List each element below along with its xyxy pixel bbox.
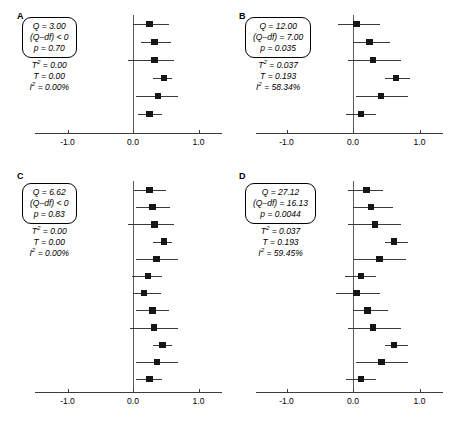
effect-size-marker	[368, 204, 375, 211]
stats-block-a: Q = 3.00(Q–df) < 0p = 0.70T2 = 0.00T = 0…	[22, 17, 77, 93]
x-tick-label: 0.0	[113, 137, 153, 147]
effect-size-marker	[161, 238, 168, 245]
stats-line: I2 = 58.34%	[252, 82, 304, 93]
effect-size-marker	[145, 273, 152, 280]
effect-size-marker	[154, 359, 161, 366]
effect-size-marker	[151, 39, 158, 46]
effect-size-marker	[151, 221, 158, 228]
effect-size-marker	[146, 111, 153, 118]
effect-size-marker	[372, 221, 379, 228]
x-tick-label: 0.0	[113, 396, 153, 406]
x-tick	[287, 130, 288, 133]
stats-line: (Q–df) = 7.00	[253, 32, 303, 43]
effect-size-marker	[378, 359, 385, 366]
x-tick-label: 1.0	[400, 137, 440, 147]
stats-block-c: Q = 6.62(Q–df) < 0p = 0.83T2 = 0.00T = 0…	[22, 183, 77, 259]
x-tick-label: 0.0	[333, 396, 373, 406]
effect-size-marker	[358, 376, 365, 383]
zero-reference-line	[353, 15, 354, 133]
effect-size-marker	[391, 342, 398, 349]
effect-size-marker	[391, 238, 398, 245]
stats-unboxed-b: T2 = 0.037T = 0.193I2 = 58.34%	[245, 58, 311, 93]
x-axis	[256, 133, 443, 134]
stats-unboxed-d: T2 = 0.037T = 0.193I2 = 59.45%	[245, 224, 316, 259]
x-axis	[35, 392, 222, 393]
effect-size-marker	[364, 307, 371, 314]
forest-plot-figure: AQ = 3.00(Q–df) < 0p = 0.70T2 = 0.00T = …	[0, 0, 464, 429]
stats-boxed-d: Q = 27.12(Q–df) = 16.13p = 0.0044	[245, 183, 316, 224]
x-tick	[133, 130, 134, 133]
stats-line: I2 = 59.45%	[252, 248, 309, 259]
effect-size-marker	[161, 75, 168, 82]
effect-size-marker	[151, 57, 158, 64]
stats-line: T2 = 0.00	[29, 226, 70, 237]
x-tick-label: -1.0	[267, 137, 307, 147]
x-tick-label: -1.0	[48, 137, 88, 147]
stats-line: (Q–df) = 16.13	[253, 198, 308, 209]
panel-letter-c: C	[17, 172, 24, 181]
x-tick	[353, 389, 354, 392]
effect-size-marker	[353, 290, 360, 297]
effect-size-marker	[146, 21, 153, 28]
stats-line: p = 0.83	[30, 209, 69, 220]
effect-size-marker	[151, 324, 158, 331]
stats-line: (Q–df) < 0	[30, 32, 69, 43]
stats-line: p = 0.035	[253, 43, 303, 54]
stats-line: Q = 27.12	[253, 187, 308, 198]
effect-size-marker	[149, 307, 156, 314]
x-tick-label: 1.0	[179, 137, 219, 147]
effect-size-marker	[353, 21, 360, 28]
zero-reference-line	[133, 15, 134, 133]
stats-line: T2 = 0.037	[252, 60, 304, 71]
x-tick	[420, 130, 421, 133]
x-tick	[353, 130, 354, 133]
stats-line: (Q–df) < 0	[30, 198, 69, 209]
stats-boxed-a: Q = 3.00(Q–df) < 0p = 0.70	[22, 17, 77, 58]
effect-size-marker	[146, 187, 153, 194]
effect-size-marker	[358, 111, 365, 118]
effect-size-marker	[146, 376, 153, 383]
stats-line: I2 = 0.00%	[29, 248, 70, 259]
x-tick	[420, 389, 421, 392]
effect-size-marker	[159, 342, 166, 349]
effect-size-marker	[378, 93, 385, 100]
effect-size-marker	[153, 256, 160, 263]
stats-block-b: Q = 12.00(Q–df) = 7.00p = 0.035T2 = 0.03…	[245, 17, 311, 93]
stats-boxed-c: Q = 6.62(Q–df) < 0p = 0.83	[22, 183, 77, 224]
stats-line: I2 = 0.00%	[29, 82, 70, 93]
effect-size-marker	[358, 273, 365, 280]
effect-size-marker	[149, 204, 156, 211]
effect-size-marker	[370, 324, 377, 331]
panel-letter-d: D	[239, 172, 246, 181]
stats-line: p = 0.0044	[253, 209, 308, 220]
stats-boxed-b: Q = 12.00(Q–df) = 7.00p = 0.035	[245, 17, 311, 58]
x-tick	[287, 389, 288, 392]
stats-unboxed-c: T2 = 0.00T = 0.00I2 = 0.00%	[22, 224, 77, 259]
x-tick-label: 1.0	[400, 396, 440, 406]
zero-reference-line	[353, 181, 354, 392]
x-tick-label: -1.0	[48, 396, 88, 406]
stats-line: T2 = 0.037	[252, 226, 309, 237]
effect-size-marker	[155, 93, 162, 100]
x-axis	[256, 392, 443, 393]
x-tick-label: 0.0	[333, 137, 373, 147]
effect-size-marker	[376, 256, 383, 263]
stats-line: Q = 3.00	[30, 21, 69, 32]
stats-line: T2 = 0.00	[29, 60, 70, 71]
stats-block-d: Q = 27.12(Q–df) = 16.13p = 0.0044T2 = 0.…	[245, 183, 316, 259]
effect-size-marker	[363, 187, 370, 194]
x-tick	[199, 130, 200, 133]
effect-size-marker	[141, 290, 148, 297]
zero-reference-line	[133, 181, 134, 392]
stats-unboxed-a: T2 = 0.00T = 0.00I2 = 0.00%	[22, 58, 77, 93]
stats-line: p = 0.70	[30, 43, 69, 54]
stats-line: Q = 12.00	[253, 21, 303, 32]
x-tick-label: 1.0	[179, 396, 219, 406]
x-tick	[199, 389, 200, 392]
x-tick	[68, 389, 69, 392]
x-axis	[35, 133, 222, 134]
x-tick	[68, 130, 69, 133]
x-tick-label: -1.0	[267, 396, 307, 406]
effect-size-marker	[393, 75, 400, 82]
stats-line: Q = 6.62	[30, 187, 69, 198]
